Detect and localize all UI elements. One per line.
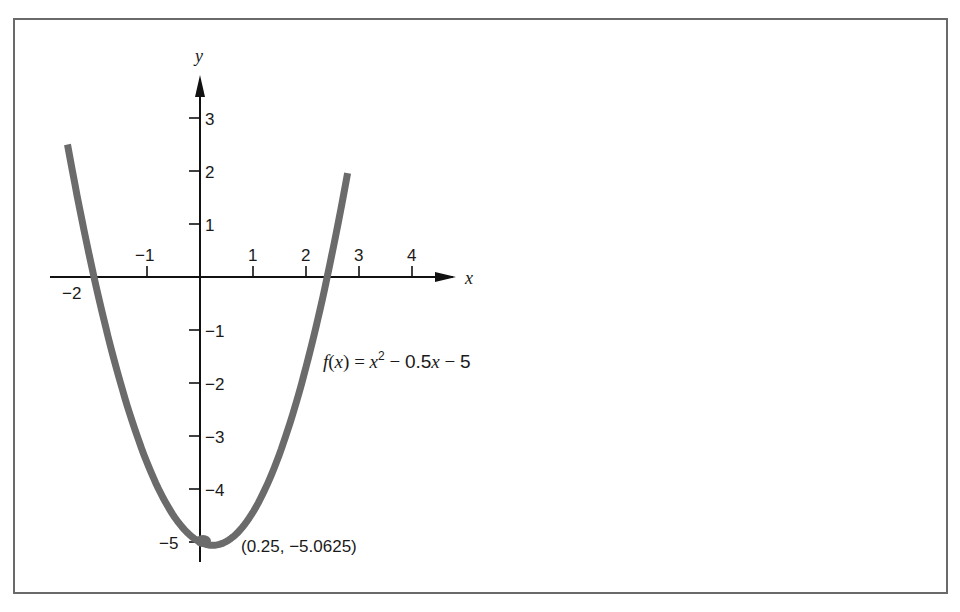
x-tick-label: 3 xyxy=(354,246,363,265)
x-tick-label: −2 xyxy=(62,284,81,303)
vertex-marker xyxy=(195,535,211,547)
x-axis-arrow-icon xyxy=(435,272,456,282)
eq-equals: = xyxy=(349,351,369,372)
x-ticks: −2−11234 xyxy=(62,246,416,303)
x-tick-label: 4 xyxy=(407,246,416,265)
x-tick-label: 2 xyxy=(301,246,310,265)
y-tick-label: −5 xyxy=(159,534,178,553)
y-axis-arrow-icon xyxy=(195,75,205,97)
y-tick-label: −4 xyxy=(205,481,224,500)
x-axis-label: x xyxy=(464,268,473,288)
plot-area: −2−11234 321−1−2−3−4−5 y x f(x) = x2 − 0… xyxy=(0,0,960,612)
y-tick-label: 1 xyxy=(205,216,214,235)
eq-constant: 5 xyxy=(460,351,471,372)
y-ticks: 321−1−2−3−4−5 xyxy=(159,110,224,553)
eq-minus-2: − xyxy=(440,351,460,372)
y-tick-label: −1 xyxy=(205,322,224,341)
eq-minus-1: − xyxy=(385,351,405,372)
eq-coefficient: 0.5 xyxy=(405,351,431,372)
y-tick-label: −2 xyxy=(205,375,224,394)
x-tick-label: −1 xyxy=(135,246,154,265)
y-tick-label: 3 xyxy=(205,110,214,129)
y-tick-label: 2 xyxy=(205,163,214,182)
y-axis-label: y xyxy=(193,46,203,66)
x-tick-label: 1 xyxy=(248,246,257,265)
vertex-label: (0.25, −5.0625) xyxy=(241,537,357,556)
y-tick-label: −3 xyxy=(205,428,224,447)
function-equation-label: f(x) = x2 − 0.5x − 5 xyxy=(323,349,471,373)
chart-figure: −2−11234 321−1−2−3−4−5 y x f(x) = x2 − 0… xyxy=(0,0,960,612)
